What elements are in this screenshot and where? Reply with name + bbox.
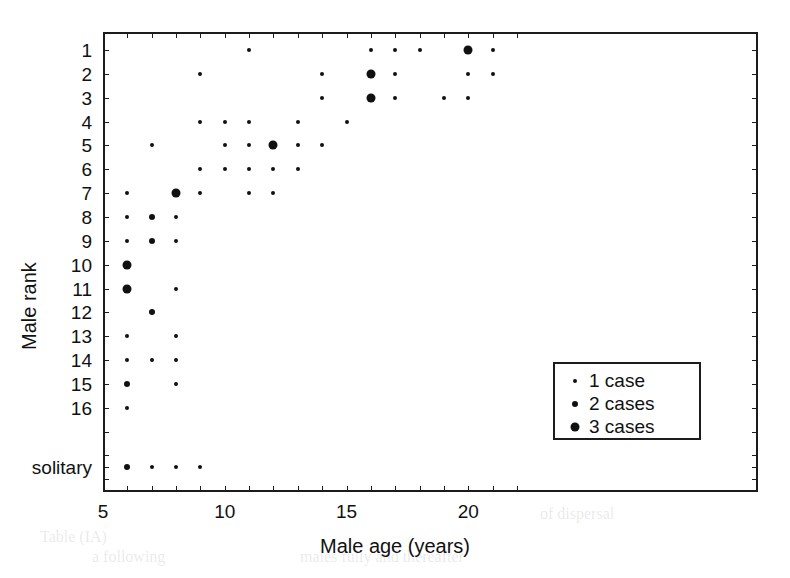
data-point xyxy=(198,465,202,469)
y-axis-tick xyxy=(103,169,109,170)
y-axis-tick xyxy=(103,384,109,385)
x-axis-tick-top xyxy=(298,32,299,38)
x-axis-tick xyxy=(273,486,274,492)
data-point xyxy=(125,334,129,338)
x-axis-tick-top xyxy=(395,32,396,38)
y-axis-tick-label: 9 xyxy=(0,231,92,250)
x-axis-tick xyxy=(444,486,445,492)
x-axis-tick-top xyxy=(371,32,372,38)
data-point xyxy=(393,48,397,52)
y-axis-tick-right xyxy=(752,122,758,123)
legend-item: 3 cases xyxy=(555,415,703,439)
y-axis-tick xyxy=(103,312,109,313)
x-axis-tick xyxy=(225,486,226,492)
x-axis-tick xyxy=(103,486,104,492)
y-axis-tick-right xyxy=(752,241,758,242)
y-axis-tick-label: solitary xyxy=(0,458,92,477)
x-axis-tick xyxy=(127,486,128,492)
data-point xyxy=(174,358,178,362)
y-axis-tick-label: 7 xyxy=(0,184,92,203)
legend-item: 2 cases xyxy=(555,392,703,416)
y-axis-tick xyxy=(103,241,109,242)
legend-marker-2-case xyxy=(555,394,589,414)
y-axis-tick xyxy=(103,336,109,337)
x-axis-tick xyxy=(152,486,153,492)
y-axis-tick-label: 8 xyxy=(0,207,92,226)
data-point xyxy=(150,143,154,147)
y-axis-tick-label: 4 xyxy=(0,112,92,131)
x-axis-tick-label: 20 xyxy=(458,502,479,521)
y-axis-tick xyxy=(103,467,109,468)
data-point xyxy=(491,48,495,52)
y-axis-tick-label: 11 xyxy=(0,279,92,298)
x-axis-tick-label: 10 xyxy=(214,502,235,521)
data-point xyxy=(124,464,130,470)
y-axis-tick-label: 10 xyxy=(0,255,92,274)
x-axis-tick-top xyxy=(127,32,128,38)
data-point xyxy=(247,143,251,147)
data-point xyxy=(418,48,422,52)
x-axis-tick xyxy=(493,486,494,492)
data-point xyxy=(198,191,202,195)
data-point xyxy=(247,191,251,195)
data-point xyxy=(320,143,324,147)
x-axis-title: Male age (years) xyxy=(0,535,790,558)
data-point xyxy=(247,120,251,124)
y-axis-tick-label: 1 xyxy=(0,41,92,60)
y-axis-tick xyxy=(103,193,109,194)
data-point xyxy=(150,465,154,469)
scatter-chart-figure: of dispersala followingmales fully and t… xyxy=(0,0,790,578)
x-axis-tick xyxy=(468,486,469,492)
x-axis-tick-top xyxy=(200,32,201,38)
y-axis-tick-label: 12 xyxy=(0,303,92,322)
legend-marker-3-case xyxy=(555,417,589,437)
legend-marker-1-case xyxy=(555,371,589,391)
x-axis-tick-top xyxy=(517,32,518,38)
y-axis-tick-right xyxy=(752,98,758,99)
data-point xyxy=(149,238,155,244)
x-axis-tick-label: 15 xyxy=(336,502,357,521)
y-axis-tick-label: 15 xyxy=(0,374,92,393)
y-axis-tick xyxy=(103,479,109,480)
data-point xyxy=(296,120,300,124)
data-point xyxy=(223,167,227,171)
legend-box: 1 case2 cases3 cases xyxy=(553,362,701,440)
y-axis-tick-right xyxy=(752,479,758,480)
y-axis-tick-label: 16 xyxy=(0,398,92,417)
data-point xyxy=(464,46,473,55)
data-point xyxy=(149,214,155,220)
data-point xyxy=(345,120,349,124)
x-axis-tick-top xyxy=(249,32,250,38)
data-point xyxy=(125,358,129,362)
y-axis-tick-right xyxy=(752,193,758,194)
x-axis-tick xyxy=(322,486,323,492)
data-point xyxy=(223,120,227,124)
y-axis-tick-right xyxy=(752,169,758,170)
data-point xyxy=(149,309,155,315)
data-point xyxy=(296,143,300,147)
data-point xyxy=(466,96,470,100)
data-point xyxy=(123,284,132,293)
y-axis-tick-right xyxy=(752,312,758,313)
x-axis-tick-top xyxy=(225,32,226,38)
y-axis-tick-label: 3 xyxy=(0,88,92,107)
y-axis-tick xyxy=(103,145,109,146)
data-point xyxy=(174,382,178,386)
data-point xyxy=(125,191,129,195)
x-axis-tick-top xyxy=(347,32,348,38)
y-axis-tick-right xyxy=(752,360,758,361)
y-axis-tick xyxy=(103,265,109,266)
data-point xyxy=(269,141,278,150)
data-point xyxy=(123,260,132,269)
legend-item: 1 case xyxy=(555,369,703,393)
y-axis-tick-right xyxy=(752,408,758,409)
y-axis-tick-right xyxy=(752,145,758,146)
data-point xyxy=(296,167,300,171)
data-point xyxy=(124,381,130,387)
data-point xyxy=(174,334,178,338)
data-point xyxy=(393,72,397,76)
data-point xyxy=(174,287,178,291)
x-axis-tick-top xyxy=(152,32,153,38)
y-axis-tick xyxy=(103,455,109,456)
data-point xyxy=(247,48,251,52)
